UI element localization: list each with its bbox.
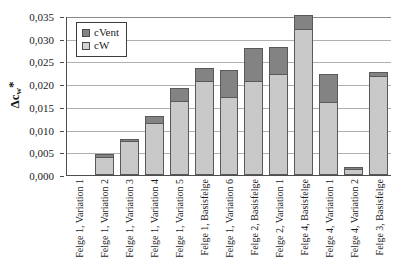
x-tick-slot: Felge 1, Variation 1 — [66, 176, 91, 268]
x-tick-label: Felge 1, Variation 5 — [173, 179, 184, 258]
y-tick-mark — [60, 17, 64, 18]
x-tick-label: Felge 2, Basisfelge — [248, 179, 259, 255]
bar-segment-cvent — [269, 47, 288, 74]
bar-segment-cw — [220, 97, 239, 175]
x-tick-label: Felge 1, Basisfelge — [198, 179, 209, 255]
y-tick-mark — [60, 85, 64, 86]
stacked-bar — [220, 70, 239, 175]
y-tick-label: 0,010 — [29, 126, 54, 136]
legend: cVent cW — [76, 22, 127, 57]
y-axis-tick-labels: 0,0350,0300,0250,0200,0150,0100,0050,000 — [8, 0, 54, 268]
x-tick-label: Felge 1, Variation 2 — [98, 179, 109, 258]
y-tick-mark — [60, 176, 64, 177]
legend-label-cw: cW — [94, 40, 109, 51]
y-tick-mark — [60, 153, 64, 154]
bar-slot — [192, 17, 217, 175]
x-tick-label: Felge 4, Variation 2 — [348, 179, 359, 258]
bar-segment-cw — [244, 81, 263, 175]
x-tick-label: Felge 1, Variation 1 — [73, 179, 84, 258]
bar-segment-cw — [170, 101, 189, 175]
bar-segment-cw — [269, 74, 288, 175]
x-tick-label: Felge 2, Variation 1 — [273, 179, 284, 258]
bar-slot — [241, 17, 266, 175]
x-tick-slot: Felge 1, Variation 3 — [116, 176, 141, 268]
y-tick-mark — [60, 62, 64, 63]
bar-segment-cw — [120, 141, 139, 175]
y-tick-label: 0,035 — [29, 12, 54, 22]
bar-segment-cvent — [319, 74, 338, 102]
stacked-bar — [145, 116, 164, 175]
bar-segment-cw — [319, 102, 338, 175]
bar-slot — [217, 17, 242, 175]
stacked-bar — [95, 154, 114, 175]
bar-segment-cvent — [220, 70, 239, 97]
bar-segment-cvent — [195, 68, 214, 80]
x-axis-tick-labels: Felge 1, Variation 1Felge 1, Variation 2… — [66, 176, 391, 268]
stacked-bar — [294, 15, 313, 175]
x-tick-label: Felge 1, Variation 4 — [148, 179, 159, 258]
y-tick-label: 0,020 — [29, 80, 54, 90]
stacked-bar — [344, 167, 363, 175]
y-tick-label: 0,030 — [29, 35, 54, 45]
x-tick-slot: Felge 1, Variation 4 — [141, 176, 166, 268]
bar-segment-cw — [369, 76, 388, 175]
x-tick-label: Felge 1, Variation 6 — [223, 179, 234, 258]
stacked-bar — [170, 88, 189, 175]
legend-item-cvent: cVent — [82, 26, 119, 39]
y-tick-label: 0,005 — [29, 148, 54, 158]
bar-segment-cvent — [145, 116, 164, 123]
stacked-bar — [195, 68, 214, 175]
stacked-bar — [319, 74, 338, 175]
x-tick-label: Felge 4, Basisfelge — [298, 179, 309, 255]
x-tick-slot: Felge 4, Variation 1 — [316, 176, 341, 268]
bar-slot — [266, 17, 291, 175]
bar-slot — [341, 17, 366, 175]
stacked-bar — [369, 72, 388, 175]
plot-area: cVent cW — [66, 17, 391, 176]
bar-segment-cvent — [244, 48, 263, 82]
stacked-bar — [269, 47, 288, 175]
x-tick-slot: Felge 1, Basisfelge — [191, 176, 216, 268]
y-tick-label: 0,000 — [29, 171, 54, 181]
x-tick-slot: Felge 4, Basisfelge — [291, 176, 316, 268]
bar-segment-cw — [294, 29, 313, 175]
bar-segment-cw — [145, 123, 164, 175]
x-tick-slot: Felge 1, Variation 2 — [91, 176, 116, 268]
x-tick-slot: Felge 1, Variation 5 — [166, 176, 191, 268]
bar-segment-cvent — [294, 15, 313, 29]
y-tick-label: 0,025 — [29, 57, 54, 67]
bar-segment-cw — [195, 81, 214, 175]
x-tick-slot: Felge 2, Variation 1 — [266, 176, 291, 268]
bar-slot — [142, 17, 167, 175]
stacked-bar — [244, 48, 263, 175]
bar-segment-cvent — [170, 88, 189, 101]
x-tick-label: Felge 1, Variation 3 — [123, 179, 134, 258]
legend-item-cw: cW — [82, 39, 119, 52]
y-tick-mark — [60, 108, 64, 109]
x-tick-slot: Felge 1, Variation 6 — [216, 176, 241, 268]
x-tick-label: Felge 3, Basisfelge — [373, 179, 384, 255]
y-tick-label: 0,015 — [29, 103, 54, 113]
bar-slot — [167, 17, 192, 175]
x-tick-slot: Felge 4, Variation 2 — [341, 176, 366, 268]
legend-label-cvent: cVent — [94, 27, 119, 38]
bar-slot — [316, 17, 341, 175]
x-tick-label: Felge 4, Variation 1 — [323, 179, 334, 258]
x-tick-slot: Felge 3, Basisfelge — [366, 176, 391, 268]
bar-slot — [366, 17, 391, 175]
legend-swatch-cvent — [82, 29, 90, 37]
stacked-bar-chart: Δcw* 0,0350,0300,0250,0200,0150,0100,005… — [0, 0, 397, 268]
bar-segment-cw — [95, 157, 114, 175]
stacked-bar — [120, 139, 139, 175]
bar-segment-cw — [344, 169, 363, 175]
bar-slot — [291, 17, 316, 175]
y-tick-mark — [60, 40, 64, 41]
x-tick-slot: Felge 2, Basisfelge — [241, 176, 266, 268]
legend-swatch-cw — [82, 42, 90, 50]
y-tick-mark — [60, 131, 64, 132]
